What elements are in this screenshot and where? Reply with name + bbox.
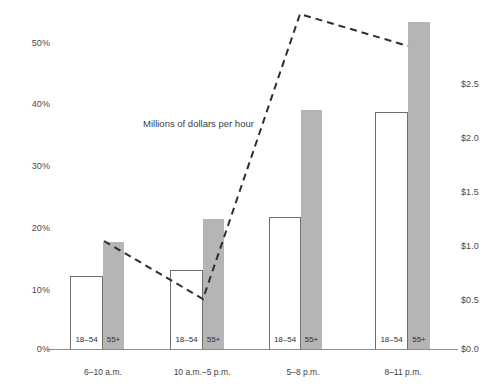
bar-18-54-6-10am: 18–54 (70, 276, 103, 349)
right-axis-tick-label: $0.0 (461, 344, 499, 354)
bar-55plus-10am-5pm: 55+ (203, 219, 224, 349)
x-axis-category-label: 5–8 p.m. (258, 367, 348, 377)
right-axis-tick-label: $2.0 (461, 133, 499, 143)
bar-55plus-8-11pm: 55+ (408, 22, 430, 349)
bar-55plus-6-10am: 55+ (103, 242, 124, 349)
right-axis-tick-label: $0.5 (461, 295, 499, 305)
bar-18-54-5-8pm: 18–54 (269, 217, 301, 349)
x-axis-category-label: 6–10 a.m. (58, 367, 148, 377)
left-axis-tick-label: 40% (18, 99, 50, 109)
x-axis-category-label: 10 a.m.–5 p.m. (152, 367, 252, 377)
x-axis-baseline (48, 349, 458, 350)
right-axis-tick-label: $2.5 (461, 79, 499, 89)
bar-label: 55+ (301, 335, 322, 344)
x-axis-category-label: 8–11 p.m. (358, 367, 448, 377)
bar-label: 55+ (408, 335, 430, 344)
bar-label: 18–54 (171, 335, 202, 344)
left-axis-tick-label: 30% (18, 161, 50, 171)
bar-label: 18–54 (71, 335, 102, 344)
bar-55plus-5-8pm: 55+ (301, 110, 322, 349)
bar-label: 55+ (103, 335, 124, 344)
left-axis-tick-label: 20% (18, 223, 50, 233)
chart-container: 50% 40% 30% 20% 10% 0% $2.5 $2.0 $1.5 $1… (0, 0, 502, 390)
left-axis-tick-label: 0% (18, 344, 50, 354)
bar-label: 55+ (203, 335, 224, 344)
line-series-annotation: Millions of dollars per hour (143, 118, 254, 129)
left-axis-tick-label: 50% (18, 38, 50, 48)
bar-18-54-10am-5pm: 18–54 (170, 270, 203, 349)
bar-label: 18–54 (376, 335, 407, 344)
bar-18-54-8-11pm: 18–54 (375, 112, 408, 349)
left-axis-tick-label: 10% (18, 285, 50, 295)
bar-label: 18–54 (270, 335, 300, 344)
right-axis-tick-label: $1.5 (461, 187, 499, 197)
right-axis-tick-label: $1.0 (461, 241, 499, 251)
